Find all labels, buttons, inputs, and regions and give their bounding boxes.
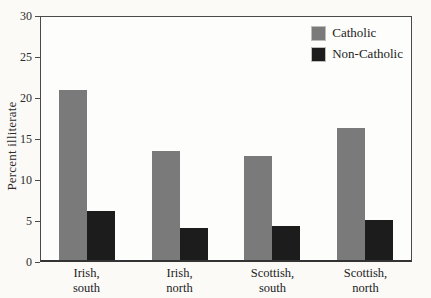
bar-catholic-scottish-south [244, 156, 272, 260]
legend-item-non-catholic: Non-Catholic [312, 46, 403, 62]
bar-non-catholic-irish-south [87, 211, 115, 260]
bar-non-catholic-scottish-north [365, 220, 393, 260]
y-tick-0: 0 [26, 256, 40, 268]
legend-item-catholic: Catholic [312, 25, 403, 41]
y-tick-30: 30 [20, 10, 40, 22]
legend-label-non-catholic: Non-Catholic [332, 46, 403, 62]
bar-group-irish-north [152, 151, 208, 260]
bar-group-scottish-north [337, 128, 393, 260]
y-tick-20: 20 [20, 92, 40, 104]
y-tick-10: 10 [20, 174, 40, 186]
bar-chart-figure: Percent illiterate 051015202530 Catholic… [0, 0, 431, 298]
bar-group-scottish-south [244, 156, 300, 260]
legend-swatch-non-catholic [312, 48, 325, 61]
bar-non-catholic-scottish-south [272, 226, 300, 260]
y-tick-label-5: 5 [26, 215, 32, 227]
y-tick-label-25: 25 [20, 51, 32, 63]
plot-area: CatholicNon-Catholic [40, 16, 412, 262]
bar-catholic-irish-north [152, 151, 180, 260]
y-tick-label-10: 10 [20, 174, 32, 186]
bar-group-irish-south [59, 90, 115, 260]
x-category-label-scottish-south: Scottish, south [251, 266, 294, 296]
y-tick-5: 5 [26, 215, 40, 227]
y-tick-label-30: 30 [20, 10, 32, 22]
x-category-label-irish-south: Irish, south [73, 266, 100, 296]
x-category-label-scottish-north: Scottish, north [344, 266, 387, 296]
y-tick-15: 15 [20, 133, 40, 145]
legend-swatch-catholic [312, 27, 325, 40]
x-axis: Irish, southIrish, northScottish, southS… [40, 266, 412, 298]
x-category-label-irish-north: Irish, north [166, 266, 192, 296]
y-tick-25: 25 [20, 51, 40, 63]
y-axis: 051015202530 [0, 16, 40, 262]
legend: CatholicNon-Catholic [312, 25, 403, 62]
y-tick-label-20: 20 [20, 92, 32, 104]
y-tick-label-0: 0 [26, 256, 32, 268]
bar-non-catholic-irish-north [180, 228, 208, 260]
legend-label-catholic: Catholic [332, 25, 376, 41]
bar-catholic-irish-south [59, 90, 87, 260]
scanned-book-figure: { "chart_data": { "type": "bar", "title"… [0, 0, 431, 298]
bar-catholic-scottish-north [337, 128, 365, 260]
y-tick-label-15: 15 [20, 133, 32, 145]
